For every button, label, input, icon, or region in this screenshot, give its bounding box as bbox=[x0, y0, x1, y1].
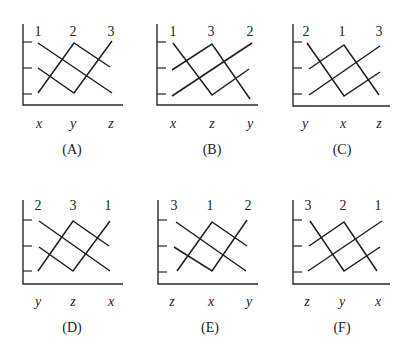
x-category-label: z bbox=[209, 116, 214, 132]
x-category-label: y bbox=[339, 294, 345, 310]
figure-canvas bbox=[0, 0, 413, 351]
x-category-label: x bbox=[36, 116, 42, 132]
x-category-label: y bbox=[246, 294, 252, 310]
series-label: 2 bbox=[303, 24, 310, 40]
series-line bbox=[172, 43, 252, 96]
series-label: 1 bbox=[105, 198, 112, 214]
x-category-label: x bbox=[208, 294, 214, 310]
x-category-label: z bbox=[169, 294, 174, 310]
series-label: 1 bbox=[375, 198, 382, 214]
series-label: 1 bbox=[35, 24, 42, 40]
series-label: 3 bbox=[171, 198, 178, 214]
x-category-label: z bbox=[376, 116, 381, 132]
x-category-label: z bbox=[70, 294, 75, 310]
x-category-label: x bbox=[375, 294, 381, 310]
x-category-label: x bbox=[340, 116, 346, 132]
series-label: 3 bbox=[376, 24, 383, 40]
x-category-label: z bbox=[304, 294, 309, 310]
x-category-label: x bbox=[108, 294, 114, 310]
panel-caption: (A) bbox=[62, 142, 81, 158]
x-category-label: x bbox=[170, 116, 176, 132]
series-label: 3 bbox=[208, 24, 215, 40]
series-line bbox=[308, 221, 382, 271]
series-label: 2 bbox=[35, 198, 42, 214]
series-label: 1 bbox=[170, 24, 177, 40]
series-label: 2 bbox=[340, 198, 347, 214]
panel-caption: (E) bbox=[201, 320, 219, 336]
series-label: 3 bbox=[108, 24, 115, 40]
x-category-label: y bbox=[247, 116, 253, 132]
series-label: 1 bbox=[339, 24, 346, 40]
series-label: 3 bbox=[70, 198, 77, 214]
x-category-label: y bbox=[35, 294, 41, 310]
series-label: 1 bbox=[207, 198, 214, 214]
series-line bbox=[39, 221, 110, 271]
x-category-label: y bbox=[70, 116, 76, 132]
series-line bbox=[176, 222, 246, 271]
series-label: 2 bbox=[70, 24, 77, 40]
panel-caption: (C) bbox=[333, 142, 352, 158]
series-line bbox=[38, 43, 112, 93]
series-label: 3 bbox=[305, 198, 312, 214]
panel-caption: (D) bbox=[62, 320, 81, 336]
series-line bbox=[309, 46, 380, 95]
panel-caption: (B) bbox=[203, 142, 222, 158]
panel-caption: (F) bbox=[333, 320, 350, 336]
x-category-label: y bbox=[302, 116, 308, 132]
series-label: 2 bbox=[247, 24, 254, 40]
series-label: 2 bbox=[245, 198, 252, 214]
x-category-label: z bbox=[108, 116, 113, 132]
